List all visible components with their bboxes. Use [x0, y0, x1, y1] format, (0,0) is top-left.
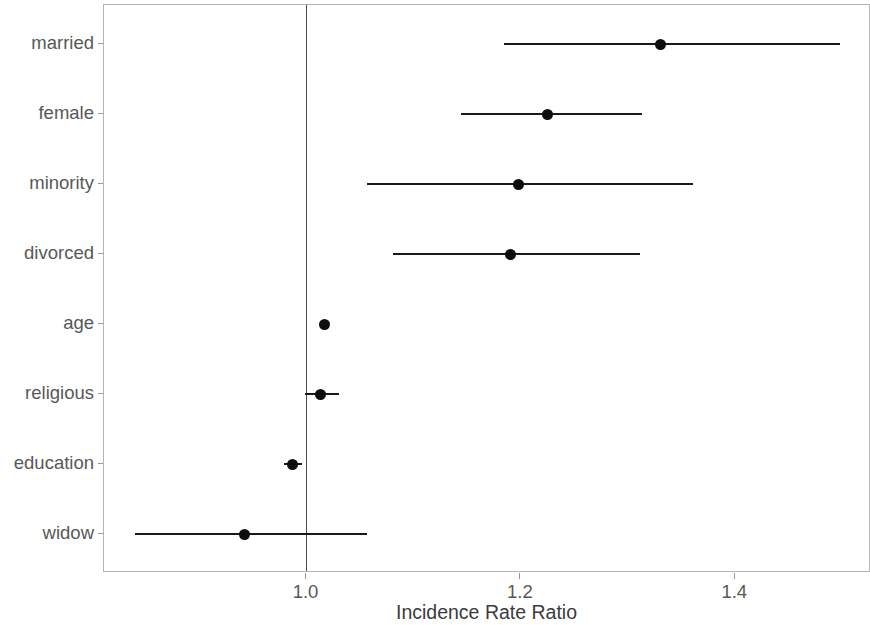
confidence-interval-line — [504, 43, 841, 45]
confidence-interval-line — [367, 183, 694, 185]
confidence-interval-line — [393, 253, 640, 255]
estimate-point — [655, 39, 666, 50]
reference-line-at-one — [306, 5, 307, 571]
x-axis-title: Incidence Rate Ratio — [103, 601, 870, 624]
estimate-point — [505, 249, 516, 260]
x-axis-label-1.0: 1.0 — [293, 581, 319, 603]
y-axis-label-age: age — [0, 312, 94, 334]
y-axis-tick — [98, 323, 103, 324]
y-axis-tick — [98, 253, 103, 254]
y-axis-tick — [98, 533, 103, 534]
y-axis-label-female: female — [0, 102, 94, 124]
x-axis-tick — [519, 573, 520, 579]
y-axis-tick — [98, 463, 103, 464]
x-axis-tick — [734, 573, 735, 579]
y-axis-label-widow: widow — [0, 522, 94, 544]
y-axis-label-married: married — [0, 32, 94, 54]
estimate-point — [319, 319, 330, 330]
y-axis-tick — [98, 393, 103, 394]
estimate-point — [513, 179, 524, 190]
x-axis-tick — [305, 573, 306, 579]
y-axis-label-divorced: divorced — [0, 242, 94, 264]
forest-plot: marriedfemaleminoritydivorcedagereligiou… — [0, 0, 870, 625]
y-axis-tick — [98, 113, 103, 114]
estimate-point — [315, 389, 326, 400]
estimate-point — [239, 529, 250, 540]
x-axis-label-1.4: 1.4 — [721, 581, 747, 603]
y-axis-label-education: education — [0, 452, 94, 474]
y-axis-tick — [98, 183, 103, 184]
estimate-point — [287, 459, 298, 470]
y-axis-tick — [98, 43, 103, 44]
y-axis-label-religious: religious — [0, 382, 94, 404]
estimate-point — [542, 109, 553, 120]
plot-area — [104, 5, 869, 571]
confidence-interval-line — [135, 533, 367, 535]
plot-panel — [103, 4, 870, 572]
y-axis-label-minority: minority — [0, 172, 94, 194]
x-axis-label-1.2: 1.2 — [507, 581, 533, 603]
